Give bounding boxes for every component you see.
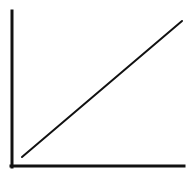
line-graph (0, 0, 193, 176)
diagram-canvas (0, 0, 193, 176)
trend-line (22, 21, 182, 157)
